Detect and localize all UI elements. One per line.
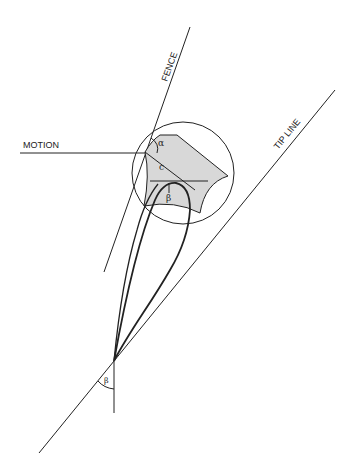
- tip-line-label: TIP LINE: [272, 117, 303, 152]
- shaded-region: [144, 135, 228, 213]
- c-label: c: [159, 162, 164, 172]
- beta-outer-label: β: [104, 376, 109, 385]
- motion-label: MOTION: [23, 140, 59, 150]
- diagram-canvas: MOTION FENCE TIP LINE α c β β: [0, 0, 355, 476]
- alpha-label: α: [158, 138, 164, 148]
- beta-inner-label: β: [166, 193, 171, 203]
